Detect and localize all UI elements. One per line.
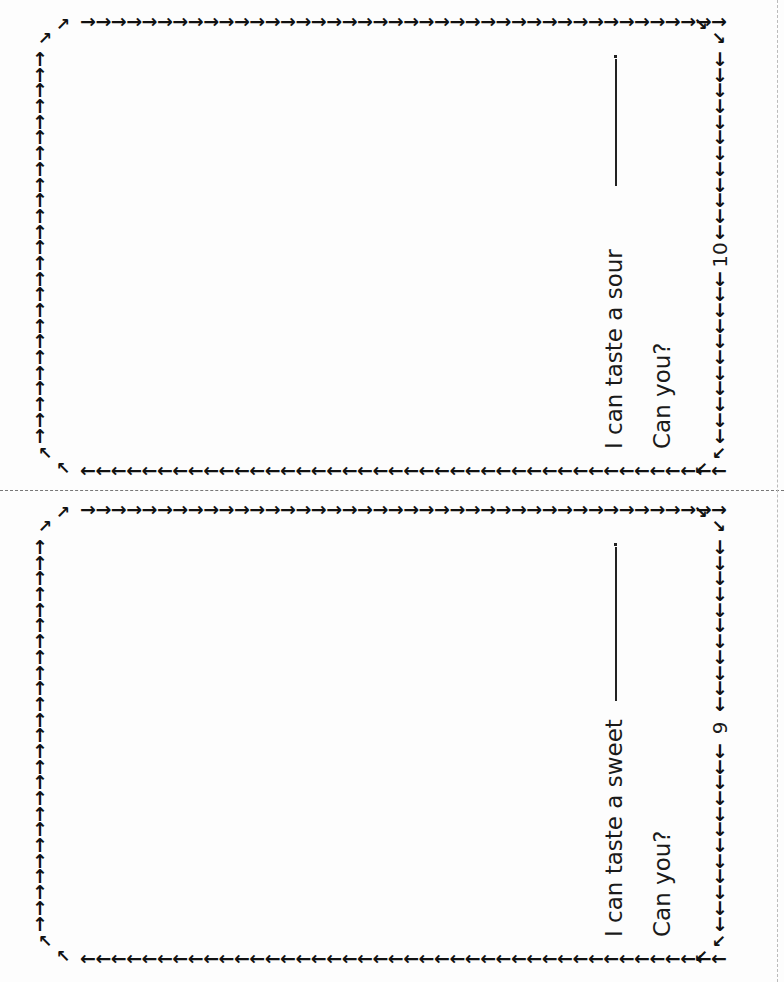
- arrow-icon: →: [219, 500, 234, 519]
- arrow-icon: ←: [526, 461, 541, 480]
- arrow-icon: →: [403, 12, 418, 31]
- arrow-icon: ←: [142, 461, 157, 480]
- arrow-icon: ←: [249, 949, 264, 968]
- corner-arrow-icon: ↘: [712, 30, 726, 47]
- arrow-icon: ↑: [30, 427, 50, 442]
- arrow-icon: →: [449, 500, 464, 519]
- arrow-icon: →: [80, 500, 95, 519]
- period: [614, 543, 617, 546]
- arrow-icon: →: [342, 500, 357, 519]
- arrow-icon: →: [588, 12, 603, 31]
- arrow-icon: ←: [311, 949, 326, 968]
- arrow-icon: ←: [480, 461, 495, 480]
- arrow-icon: →: [372, 12, 387, 31]
- arrow-icon: ←: [157, 949, 172, 968]
- arrow-icon: →: [157, 500, 172, 519]
- arrow-icon: →: [219, 12, 234, 31]
- arrow-icon: ←: [711, 949, 726, 968]
- arrow-icon: ←: [372, 461, 387, 480]
- arrow-icon: →: [234, 12, 249, 31]
- arrow-icon: →: [511, 12, 526, 31]
- arrow-icon: ←: [203, 461, 218, 480]
- arrow-icon: →: [142, 500, 157, 519]
- arrow-icon: →: [295, 12, 310, 31]
- arrow-icon: ←: [188, 461, 203, 480]
- arrow-icon: →: [649, 12, 664, 31]
- arrow-icon: ←: [234, 949, 249, 968]
- arrow-icon: →: [342, 12, 357, 31]
- arrow-icon: →: [665, 12, 680, 31]
- arrow-icon: →: [665, 500, 680, 519]
- prompt-text: Can you?: [649, 830, 675, 937]
- arrow-icon: ↓: [710, 160, 730, 175]
- arrow-icon: →: [603, 500, 618, 519]
- arrow-icon: ↑: [30, 915, 50, 930]
- arrow-icon: →: [326, 12, 341, 31]
- arrow-icon: →: [111, 500, 126, 519]
- arrow-icon: →: [95, 500, 110, 519]
- arrow-icon: ←: [649, 461, 664, 480]
- border-left: ↑↑↑↑↑↑↑↑↑↑↑↑↑↑↑↑↑↑↑↑↑↑↑↑↑: [30, 538, 50, 930]
- arrow-icon: →: [511, 500, 526, 519]
- arrow-icon: ←: [203, 949, 218, 968]
- page-number: 9: [706, 713, 734, 743]
- arrow-icon: →: [388, 12, 403, 31]
- arrow-icon: ←: [157, 461, 172, 480]
- arrow-icon: →: [188, 12, 203, 31]
- arrow-icon: ←: [111, 949, 126, 968]
- arrow-icon: →: [496, 500, 511, 519]
- corner-arrow-icon: ↖: [56, 948, 70, 965]
- arrow-icon: ←: [80, 949, 95, 968]
- arrow-icon: →: [280, 500, 295, 519]
- arrow-icon: ←: [588, 461, 603, 480]
- border-bottom: ←←←←←←←←←←←←←←←←←←←←←←←←←←←←←←←←←←←←←←←←…: [80, 949, 690, 968]
- corner-arrow-icon: ↖: [56, 460, 70, 477]
- arrow-icon: ←: [403, 461, 418, 480]
- arrow-icon: →: [480, 500, 495, 519]
- arrow-icon: ↑: [30, 648, 50, 663]
- arrow-icon: ←: [603, 461, 618, 480]
- arrow-icon: ←: [126, 461, 141, 480]
- corner-arrow-icon: ↙: [694, 948, 708, 965]
- arrow-icon: ←: [265, 461, 280, 480]
- answer-blank: [615, 547, 617, 701]
- arrow-icon: →: [172, 12, 187, 31]
- arrow-icon: ←: [357, 949, 372, 968]
- arrow-icon: →: [634, 12, 649, 31]
- arrow-icon: →: [465, 12, 480, 31]
- arrow-icon: ←: [295, 949, 310, 968]
- arrow-icon: ↑: [30, 160, 50, 175]
- arrow-icon: →: [172, 500, 187, 519]
- arrow-icon: ←: [249, 461, 264, 480]
- card-page-10: →→→→→→→→→→→→→→→→→→→→→→→→→→→→→→→→→→→→→→→→…: [30, 12, 730, 480]
- arrow-icon: ←: [126, 949, 141, 968]
- arrow-icon: →: [203, 12, 218, 31]
- arrow-icon: ←: [573, 949, 588, 968]
- arrow-icon: →: [449, 12, 464, 31]
- arrow-icon: ←: [511, 461, 526, 480]
- arrow-icon: ↓: [710, 915, 730, 930]
- arrow-icon: ←: [496, 461, 511, 480]
- arrow-icon: ←: [388, 461, 403, 480]
- corner-arrow-icon: ↙: [712, 933, 726, 950]
- arrow-icon: ←: [342, 461, 357, 480]
- prompt-text: Can you?: [649, 342, 675, 449]
- arrow-icon: ←: [80, 461, 95, 480]
- arrow-icon: ←: [557, 949, 572, 968]
- arrow-icon: ←: [526, 949, 541, 968]
- arrow-icon: →: [311, 12, 326, 31]
- arrow-icon: →: [419, 500, 434, 519]
- arrow-icon: ←: [557, 461, 572, 480]
- corner-arrow-icon: ↗: [56, 504, 70, 521]
- arrow-icon: →: [249, 500, 264, 519]
- arrow-icon: ←: [326, 949, 341, 968]
- arrow-icon: →: [372, 500, 387, 519]
- arrow-icon: ←: [619, 461, 634, 480]
- arrow-icon: ←: [419, 461, 434, 480]
- border-bottom: ←←←←←←←←←←←←←←←←←←←←←←←←←←←←←←←←←←←←←←←←…: [80, 461, 690, 480]
- arrow-icon: →: [603, 12, 618, 31]
- corner-arrow-icon: ↖: [38, 445, 52, 462]
- corner-arrow-icon: ↘: [694, 16, 708, 33]
- arrow-icon: →: [619, 500, 634, 519]
- border-left: ↑↑↑↑↑↑↑↑↑↑↑↑↑↑↑↑↑↑↑↑↑↑↑↑↑: [30, 50, 50, 442]
